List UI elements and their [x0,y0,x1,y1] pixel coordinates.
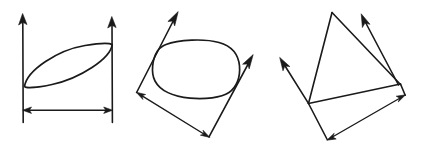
geometric-sketch-figure [0,0,427,155]
figure-canvas [0,0,427,155]
